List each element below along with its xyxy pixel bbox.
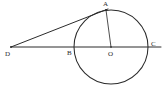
vertex-dot-o xyxy=(110,46,112,48)
point-label-b: B xyxy=(67,50,72,57)
point-label-c: C xyxy=(151,41,156,48)
vertex-dot-a xyxy=(105,9,107,11)
segment-da xyxy=(11,9,108,47)
geometry-canvas xyxy=(0,0,164,86)
segment-oa xyxy=(106,10,111,47)
geometry-figure: A D B O C xyxy=(0,0,164,86)
vertex-dot-d xyxy=(10,46,12,48)
point-label-a: A xyxy=(103,1,108,8)
point-label-d: D xyxy=(5,51,10,58)
point-label-o: O xyxy=(108,51,113,58)
